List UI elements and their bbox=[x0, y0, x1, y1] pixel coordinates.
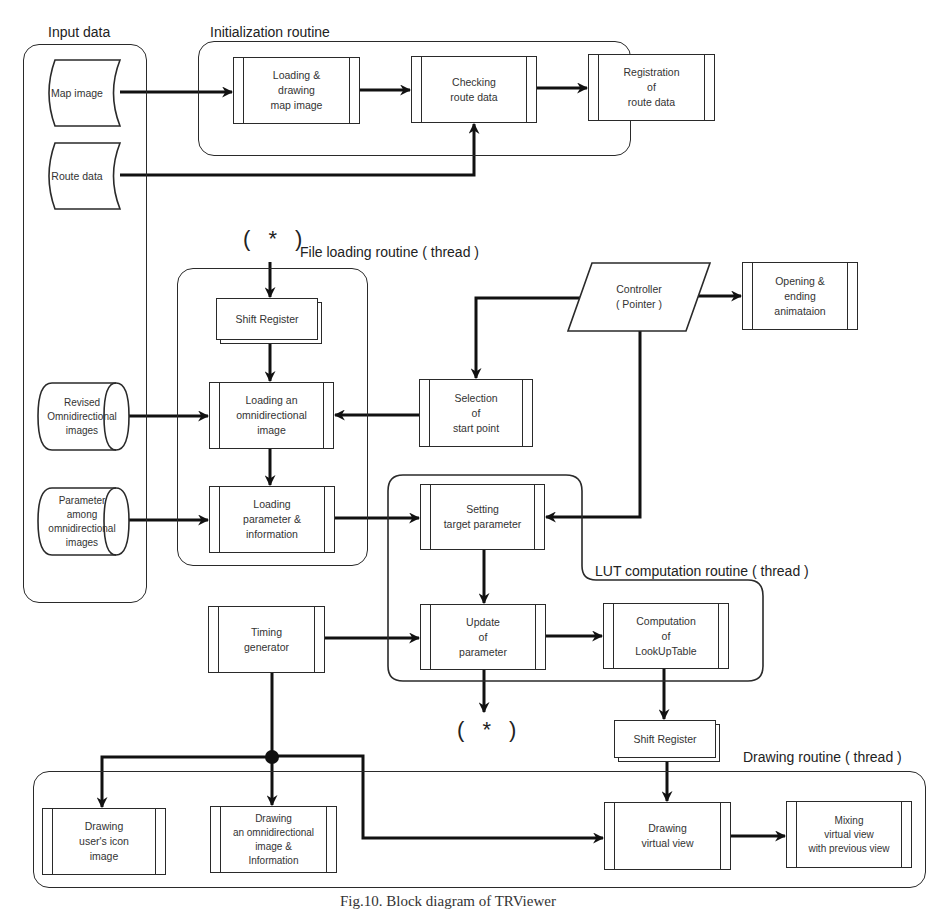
input-map-image: Map image bbox=[44, 60, 110, 126]
process-timing-generator: Timing generator bbox=[208, 606, 325, 673]
process-update-parameter: Update of parameter bbox=[420, 604, 546, 670]
process-label: Drawing virtual view bbox=[630, 821, 706, 851]
group-label-input-data: Input data bbox=[48, 24, 110, 40]
process-drawing-omnidirectional-info: Drawing an omnidirectional image & Infor… bbox=[210, 806, 337, 873]
process-label: Loading parameter & information bbox=[231, 497, 313, 542]
input-revised-omnidirectional-images: Revised Omnidirectional images bbox=[36, 383, 128, 450]
loop-connector-bottom: ( * ) bbox=[457, 717, 522, 743]
group-label-drawing: Drawing routine ( thread ) bbox=[743, 749, 902, 765]
process-drawing-virtual-view: Drawing virtual view bbox=[604, 802, 731, 870]
process-loading-drawing-map: Loading & drawing map image bbox=[233, 57, 360, 124]
process-mixing-virtual-view: Mixing virtual view with previous view bbox=[786, 801, 912, 868]
process-label: Mixing virtual view with previous view bbox=[804, 814, 893, 856]
process-label: Loading & drawing map image bbox=[259, 68, 335, 113]
input-parameter-omnidirectional-images: Parameter among omnidirectional images bbox=[36, 488, 128, 555]
process-label: Drawing an omnidirectional image & Infor… bbox=[229, 812, 318, 868]
shift-register-bottom: Shift Register bbox=[614, 720, 716, 758]
process-label: Update of parameter bbox=[447, 615, 519, 660]
process-label: Loading an omnidirectional image bbox=[224, 393, 319, 438]
input-route-data: Route data bbox=[44, 143, 110, 209]
loop-connector-top: ( * ) bbox=[243, 226, 308, 252]
process-label: Registration of route data bbox=[611, 65, 691, 110]
group-label-file-loading: File loading routine ( thread ) bbox=[300, 244, 479, 260]
process-label: Selection of start point bbox=[441, 391, 511, 436]
process-label: Drawing user's icon image bbox=[67, 819, 141, 864]
process-label: Setting target parameter bbox=[432, 502, 534, 532]
group-label-lut-computation: LUT computation routine ( thread ) bbox=[595, 563, 809, 579]
group-label-initialization: Initialization routine bbox=[210, 24, 330, 40]
process-loading-parameter: Loading parameter & information bbox=[209, 486, 335, 553]
process-opening-ending-animation: Opening & ending animataion bbox=[742, 262, 858, 330]
process-registration-route: Registration of route data bbox=[588, 54, 715, 121]
io-controller-pointer: Controller ( Pointer ) bbox=[580, 263, 698, 331]
process-setting-target-parameter: Setting target parameter bbox=[420, 484, 545, 550]
shift-register-top: Shift Register bbox=[216, 298, 318, 340]
process-selection-start-point: Selection of start point bbox=[419, 379, 533, 447]
process-loading-omnidirectional-image: Loading an omnidirectional image bbox=[209, 382, 334, 449]
process-label: Checking route data bbox=[438, 75, 509, 105]
process-computation-lookuptable: Computation of LookUpTable bbox=[603, 603, 729, 669]
figure-caption: Fig.10. Block diagram of TRViewer bbox=[340, 893, 556, 909]
process-label: Opening & ending animataion bbox=[762, 274, 837, 319]
process-label: Timing generator bbox=[232, 625, 301, 655]
process-label: Computation of LookUpTable bbox=[623, 614, 708, 659]
process-drawing-user-icon: Drawing user's icon image bbox=[42, 808, 166, 875]
process-checking-route: Checking route data bbox=[411, 56, 537, 123]
